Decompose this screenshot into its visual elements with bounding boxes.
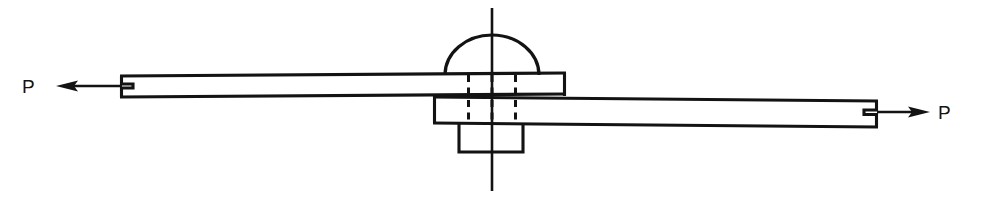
load-label-left: P xyxy=(22,76,35,97)
upper-plate xyxy=(120,73,566,97)
riveted-lap-joint-figure: P P xyxy=(0,0,984,213)
lower-plate-right-notch xyxy=(864,101,877,127)
load-label-right: P xyxy=(938,102,951,123)
upper-plate-left-notch xyxy=(122,76,134,97)
joint-diagram-canvas: P P xyxy=(0,0,984,213)
upper-plate-top-edge xyxy=(120,73,566,76)
lower-plate-bottom-edge xyxy=(433,123,878,127)
tension-arrow-right xyxy=(877,107,930,118)
tension-arrow-left xyxy=(56,81,122,92)
lower-plate xyxy=(433,96,878,127)
lower-plate-top-edge xyxy=(433,97,878,101)
